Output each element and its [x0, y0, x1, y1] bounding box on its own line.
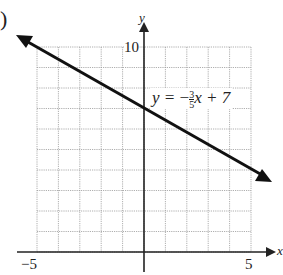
y-tick-10: 10 — [124, 39, 139, 56]
line-arrow-start-icon — [16, 35, 33, 48]
x-tick-max: 5 — [245, 256, 253, 273]
x-axis-label: x — [277, 243, 283, 259]
y-axis-label: y — [139, 10, 145, 26]
graph — [0, 0, 283, 275]
axes — [17, 28, 270, 272]
x-axis-arrow-icon — [266, 247, 276, 257]
equation-label: y = −35x + 7 — [150, 88, 232, 109]
x-tick-min: −5 — [21, 256, 37, 273]
